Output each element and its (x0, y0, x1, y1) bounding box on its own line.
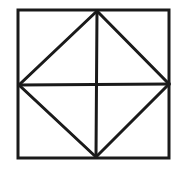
square-diamond-figure (0, 0, 176, 179)
horizontal-midline (19, 84, 169, 85)
diagram-canvas (0, 0, 176, 179)
